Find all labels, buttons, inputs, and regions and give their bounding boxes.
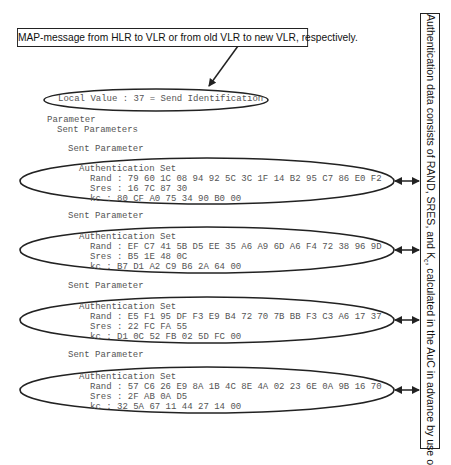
sent-parameter-header: Sent Parameter (68, 350, 144, 361)
sent-parameter-header: Sent Parameter (68, 211, 144, 222)
local-value-text: Local Value : 37 = Send Identification (58, 94, 263, 105)
diagram-lines (0, 0, 451, 465)
sent-parameters-label: Sent Parameters (57, 125, 138, 136)
side-callout-box: Authentication data consists of RAND, SR… (420, 13, 440, 449)
callout-arrow (209, 46, 238, 86)
auth-set-kc: kc : 80 CF A0 75 34 90 B0 00 (90, 194, 241, 205)
side-callout-text: Authentication data consists of RAND, SR… (423, 14, 437, 448)
top-callout-text: MAP-message from HLR to VLR or from old … (18, 31, 358, 43)
auth-set-kc: kc : B7 D1 A2 C9 B6 2A 64 00 (90, 262, 241, 273)
sent-parameter-header: Sent Parameter (68, 144, 144, 155)
auth-set-kc: kc : 32 5A 67 11 44 27 14 00 (90, 402, 241, 413)
auth-set-kc: kc : D1 0C 52 FB 02 5D FC 00 (90, 332, 241, 343)
sent-parameter-header: Sent Parameter (68, 281, 144, 292)
top-callout-box: MAP-message from HLR to VLR or from old … (17, 28, 308, 47)
